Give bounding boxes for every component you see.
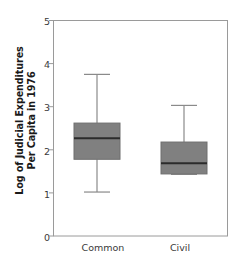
y-axis-tickmarks [49, 21, 54, 237]
box-civil [161, 142, 207, 174]
box-common [74, 123, 120, 159]
boxplot-figure: Log of Judicial Expenditures Per Capita … [0, 0, 241, 263]
plot-area [0, 0, 241, 263]
